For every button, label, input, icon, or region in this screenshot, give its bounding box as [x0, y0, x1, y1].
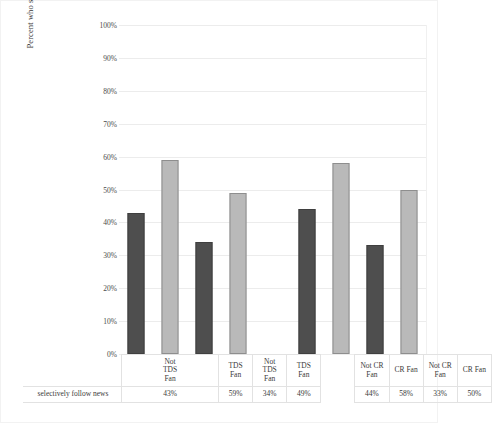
table-cell-value: 43%: [122, 387, 219, 403]
table-cell-value: 50%: [457, 387, 491, 403]
table-cell-spacer: [321, 355, 355, 387]
table-cell-category: Not CRFan: [423, 355, 457, 387]
table-row-header: selectively follow news: [23, 387, 122, 403]
table-cell-value: 58%: [389, 387, 423, 403]
bar: [128, 213, 145, 354]
bar: [196, 242, 213, 354]
y-axis-tick-label: 80%: [89, 86, 117, 95]
table-cell-value: 49%: [287, 387, 321, 403]
table-row-categories: NotTDSFanTDSFanNotTDSFanTDSFanNot CRFanC…: [23, 355, 491, 387]
bar: [230, 193, 247, 354]
y-axis-tick-label: 10%: [89, 317, 117, 326]
y-axis-tick-label: 100%: [89, 21, 117, 30]
y-axis-tick-label: 30%: [89, 251, 117, 260]
bar: [400, 190, 417, 355]
y-axis-tick-label: 40%: [89, 218, 117, 227]
y-axis-title: Percent who selectively follow the news: [23, 0, 37, 93]
table-corner-cell: [23, 355, 122, 387]
bar: [162, 160, 179, 354]
data-table: NotTDSFanTDSFanNotTDSFanTDSFanNot CRFanC…: [23, 354, 492, 403]
table-cell-value: 34%: [253, 387, 287, 403]
table-row-values: selectively follow news43%59%34%49%44%58…: [23, 387, 491, 403]
table-cell-category: Not CRFan: [355, 355, 389, 387]
bar-slot: [153, 25, 187, 354]
bar: [298, 209, 315, 354]
table-cell-value: 44%: [355, 387, 389, 403]
table-cell-value: 59%: [219, 387, 253, 403]
bar-slot: [119, 25, 153, 354]
bar-slot: [221, 25, 255, 354]
table-cell-category: NotTDSFan: [122, 355, 219, 387]
y-axis-tick-label: 90%: [89, 53, 117, 62]
bar-slot: [255, 25, 289, 354]
y-axis-tick-label: 50%: [89, 185, 117, 194]
plot-wrapper: 100%90%80%70%60%50%40%30%20%10%0%: [89, 19, 427, 354]
table-cell-category: CR Fan: [389, 355, 423, 387]
bar-slot: [324, 25, 358, 354]
bar-slot: [290, 25, 324, 354]
table-cell-spacer: [321, 387, 355, 403]
y-axis-tick-label: 20%: [89, 284, 117, 293]
table-cell-category: NotTDSFan: [253, 355, 287, 387]
table-cell-value: 33%: [423, 387, 457, 403]
table-cell-category: TDSFan: [219, 355, 253, 387]
bar-slot: [187, 25, 221, 354]
bar-series: [119, 25, 426, 354]
table-cell-category: TDSFan: [287, 355, 321, 387]
y-axis-tick-label: 60%: [89, 152, 117, 161]
bar: [366, 245, 383, 354]
table-cell-category: CR Fan: [457, 355, 491, 387]
y-axis-tick-label: 70%: [89, 119, 117, 128]
plot-area: [119, 25, 427, 354]
bar: [332, 163, 349, 354]
bar-slot: [358, 25, 392, 354]
bar-slot: [392, 25, 426, 354]
